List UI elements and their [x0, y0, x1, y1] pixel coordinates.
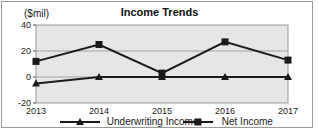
svg-text:2013: 2013 [26, 106, 46, 116]
svg-text:2014: 2014 [89, 106, 109, 116]
svg-text:20: 20 [21, 46, 31, 56]
svg-text:0: 0 [26, 72, 31, 82]
legend-label-net-income: Net Income [222, 116, 273, 127]
legend-item-underwriting: Underwriting Income [60, 116, 199, 127]
svg-text:2015: 2015 [152, 106, 172, 116]
svg-text:40: 40 [21, 20, 31, 30]
svg-text:2017: 2017 [278, 106, 298, 116]
svg-text:2016: 2016 [215, 106, 235, 116]
line-chart-plot: -200204020132014201520162017 [0, 0, 319, 133]
legend-item-net-income: Net Income [183, 116, 273, 127]
square-marker-icon [183, 117, 213, 127]
triangle-marker-icon [60, 117, 100, 127]
